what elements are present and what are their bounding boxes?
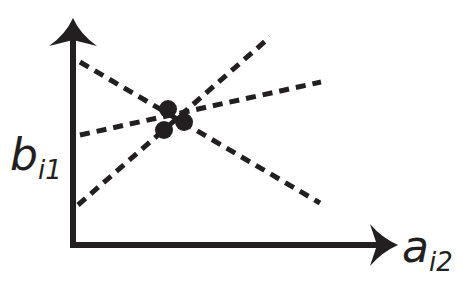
shallow-ascending-line	[80, 82, 321, 135]
svg-text:ai2: ai2	[402, 221, 453, 277]
x-axis-label-main: a	[402, 221, 429, 272]
x-axis-label: ai2	[402, 221, 453, 277]
data-point	[155, 121, 173, 139]
y-axis-label: bi1	[10, 129, 62, 185]
axes	[49, 18, 398, 266]
y-axis-label-subscript: i1	[38, 155, 62, 185]
candidate-lines	[78, 37, 321, 205]
svg-text:bi1: bi1	[10, 129, 62, 185]
y-axis-label-main: b	[10, 129, 38, 180]
diagram-canvas: bi1 ai2	[0, 0, 462, 281]
descending-line	[80, 62, 320, 203]
data-point	[159, 100, 177, 118]
x-axis-label-subscript: i2	[429, 247, 453, 277]
steep-ascending-line	[78, 37, 270, 205]
data-point	[175, 113, 193, 131]
